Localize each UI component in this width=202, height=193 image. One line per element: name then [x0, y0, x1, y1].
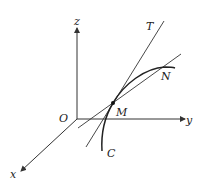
secant-line-MN [78, 54, 181, 128]
point-N-label: N [160, 70, 171, 83]
tangent-label: T [146, 20, 155, 33]
x-axis [21, 119, 77, 171]
origin-label: O [59, 112, 68, 125]
z-axis-label: z [73, 15, 80, 28]
point-M [111, 101, 115, 105]
point-M-label: M [115, 106, 128, 119]
x-axis-label: x [10, 168, 17, 181]
curve-label: C [107, 147, 116, 160]
tangent-line-diagram: z y x O T N M C [0, 0, 202, 193]
tangent-line-T [86, 21, 164, 147]
y-axis-label: y [185, 114, 193, 127]
